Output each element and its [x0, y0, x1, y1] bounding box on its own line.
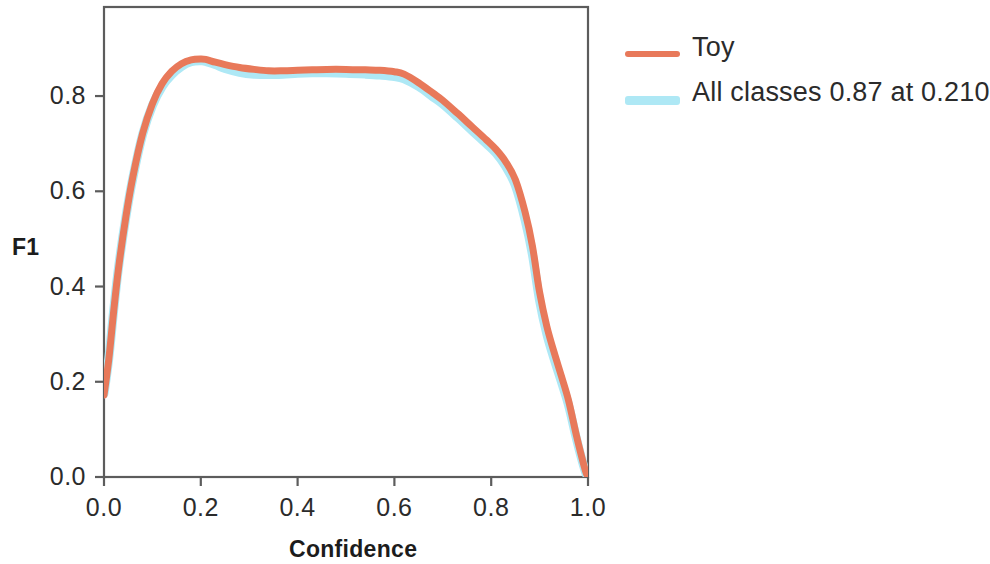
legend-swatch — [625, 96, 680, 105]
y-tick-label: 0.0 — [26, 462, 86, 491]
y-tick-label: 0.6 — [26, 176, 86, 205]
y-tick-label: 0.8 — [26, 81, 86, 110]
legend-label: Toy — [692, 32, 735, 63]
legend-swatch — [625, 51, 680, 57]
y-axis-title: F1 — [12, 234, 39, 261]
y-tick-label: 0.4 — [26, 272, 86, 301]
series-line — [104, 59, 588, 477]
series-group — [104, 59, 588, 477]
x-axis-title: Confidence — [289, 536, 417, 563]
series-line — [104, 61, 588, 477]
y-tick-label: 0.2 — [26, 367, 86, 396]
legend-label: All classes 0.87 at 0.210 — [692, 77, 990, 108]
